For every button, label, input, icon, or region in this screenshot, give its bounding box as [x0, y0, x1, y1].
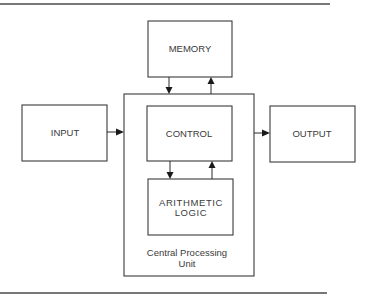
arrowhead-up-icon — [208, 77, 215, 84]
arrow-memory-to-cpu — [166, 77, 173, 94]
arrowhead-right-icon — [116, 129, 124, 136]
memory-label: MEMORY — [169, 43, 212, 54]
control-node: CONTROL — [147, 106, 232, 161]
arrow-cpu-to-output — [254, 130, 270, 137]
arrow-input-to-cpu — [107, 129, 124, 136]
output-label: OUTPUT — [292, 128, 331, 139]
output-node: OUTPUT — [270, 106, 355, 162]
control-label: CONTROL — [166, 128, 212, 139]
input-label: INPUT — [51, 127, 80, 138]
memory-node: MEMORY — [148, 21, 232, 77]
alu-node: ARITHMETIC LOGIC — [148, 179, 233, 235]
cpu-block-diagram: MEMORY Central Processing Unit CONTROL A… — [0, 0, 371, 299]
input-node: INPUT — [22, 105, 107, 161]
cpu-label-line2: Unit — [179, 258, 196, 269]
arrowhead-right-icon — [262, 130, 270, 137]
cpu-label-line1: Central Processing — [147, 247, 227, 258]
arrow-cpu-to-memory — [208, 77, 215, 94]
arrowhead-down-icon — [166, 87, 173, 94]
alu-label-line2: LOGIC — [175, 207, 208, 218]
